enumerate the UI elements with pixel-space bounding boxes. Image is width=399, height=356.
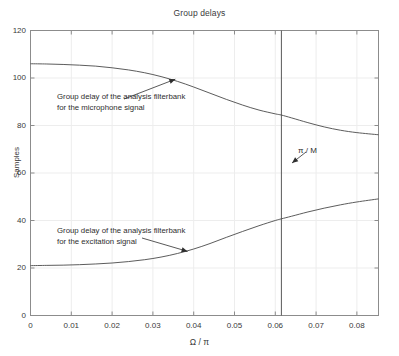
excitation-annotation-line-1: Group delay of the analysis filterbank: [57, 226, 185, 237]
y-tick-label: 80: [0, 121, 26, 130]
microphone-annotation-line-2: for the microphone signal: [57, 103, 185, 114]
microphone-annotation-line-1: Group delay of the analysis filterbank: [57, 92, 185, 103]
plot-area: [0, 0, 399, 356]
x-tick-label: 0.08: [337, 321, 377, 330]
y-tick-label: 20: [0, 263, 26, 272]
gridlines: [31, 31, 379, 316]
x-tick-label: 0: [11, 321, 51, 330]
x-tick-label: 0.03: [133, 321, 173, 330]
excitation-annotation-line-2: for the excitation signal: [57, 237, 185, 248]
x-tick-label: 0.06: [255, 321, 295, 330]
x-tick-label: 0.01: [51, 321, 91, 330]
pi-over-m-label: π / M: [298, 146, 317, 155]
x-tick-label: 0.02: [92, 321, 132, 330]
figure-canvas: Group delays Samples Ω / π 0204060801001…: [0, 0, 399, 356]
x-tick-label: 0.04: [174, 321, 214, 330]
excitation-annotation: Group delay of the analysis filterbank f…: [57, 226, 185, 247]
y-tick-label: 120: [0, 26, 26, 35]
x-tick-label: 0.07: [296, 321, 336, 330]
y-tick-label: 100: [0, 73, 26, 82]
y-tick-label: 60: [0, 168, 26, 177]
x-tick-label: 0.05: [214, 321, 254, 330]
y-tick-label: 0: [0, 311, 26, 320]
y-tick-label: 40: [0, 216, 26, 225]
microphone-annotation: Group delay of the analysis filterbank f…: [57, 92, 185, 113]
